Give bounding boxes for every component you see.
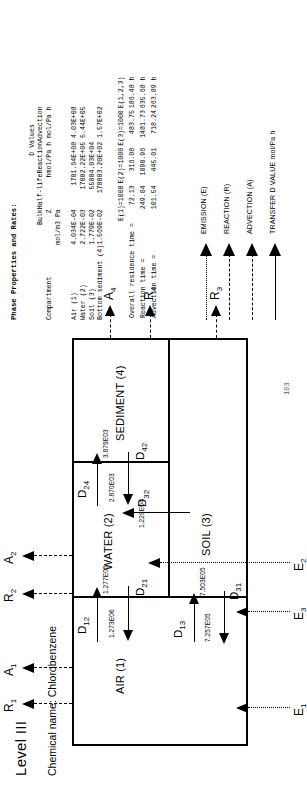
legend-label-advection: ADVECTION (A) [246,179,253,234]
header-compartment-blank [37,245,46,320]
dvalues-group-header: D Values [29,106,38,173]
residence-row: Reaction time = 249.04 1090.96 1481.73 6… [140,77,149,319]
header-halflife-l2: h [46,174,55,210]
d21-value: 1.273E06 [108,609,115,638]
arrow-shaft-d42 [128,452,129,494]
emission-e2-arrow [148,558,160,568]
advection-a1-arrow [22,663,34,673]
legend-label-reaction: REACTION (R) [223,184,230,234]
table-header-row-2: Compartment Z h mol/Pa h mol/Pa h [46,106,55,320]
divider-soil [168,340,170,598]
residence-header-row: E(1)=1000 E(2)=1000 E(3)=1000 E(1,2,3) [118,77,127,319]
cell-bulk-z: 1.779E-02 [89,209,98,245]
cell-compartment: Water (2) [80,245,89,320]
compartment-label-water: WATER (2) [102,513,114,570]
residence-e123: 635.68 h [140,77,149,109]
d24-value: 3.879E03 [102,429,109,458]
residence-e1: 101.54 [151,185,160,221]
advection-a1-label: A1 [2,664,18,676]
page-canvas: Level III Chemical name: Chlorobenzene 1… [0,0,299,790]
residence-time-table: E(1)=1000 E(2)=1000 E(3)=1000 E(1,2,3) O… [116,75,161,321]
d32-value: 1.228E04 [138,499,145,528]
legend-label-transfer-d: TRANSFER D VALUE mol/Pa h [269,130,276,234]
table-spacer-row [64,106,71,320]
arrow-shaft-d24 [97,462,98,506]
residence-e3: 718.24 [151,110,160,146]
residence-e1: 249.04 [140,185,149,221]
box-top-edge [72,338,74,746]
cell-d-advection: 1.57E+02 [97,106,106,142]
legend-arrow-transfer-icon [269,243,281,256]
legend-line-emission-icon [206,254,207,320]
emission-e3-line [248,611,290,612]
legend-line-reaction-icon [229,254,230,320]
residence-e3: 483.75 [129,110,138,146]
header-bulk-l3: mol/m3 Pa [55,209,64,245]
cell-bulk-z: 4.034E-04 [71,209,80,245]
cell-d-reaction: 1.64E+08 [71,142,80,174]
residence-col-header: E(2)=1000 [118,148,127,184]
legend-item-transfer-d: TRANSFER D VALUE mol/Pa h [265,20,288,320]
divider-sediment [72,462,168,464]
emission-e1-line [248,707,290,708]
d24-label: D24 [76,481,91,498]
legend-item-advection: ADVECTION (A) [242,20,265,320]
arrow-head-d13 [189,593,199,604]
panel-heading: Phase Properties and Rates: [10,4,20,320]
reaction-r1-arrow [22,699,34,709]
table-header-group-row: D Values [29,106,38,320]
reaction-r2-line [34,593,72,594]
residence-e123: 263.89 h [151,77,160,109]
header-bulk-l1: Bulk [37,209,46,245]
diagram-legend: EMISSION (E) REACTION (R) ADVECTION (A) … [196,20,288,320]
d42-label: D42 [134,443,149,460]
cell-d-reaction: 3.20E+02 [97,142,106,174]
legend-item-reaction: REACTION (R) [219,20,242,320]
residence-e1: 72.13 [129,185,138,221]
phase-properties-table: D Values Bulk Half-life Reaction Advecti… [29,106,107,320]
table-row: Air (1) 4.034E-04 170 1.64E+08 4.03E+08 [71,106,80,320]
phase-properties-panel: Phase Properties and Rates: D Values Bul… [10,4,162,320]
cell-d-advection: 4.03E+08 [71,106,80,142]
d21-label: D21 [134,579,149,596]
residence-e123: 186.48 h [129,77,138,109]
arrow-shaft-d13 [194,602,195,642]
residence-label: Reaction time = [140,223,149,318]
residence-col-header: E(1)=1000 [118,185,127,221]
arrow-shaft-d12 [97,596,98,642]
compartment-label-air: AIR (1) [114,658,126,694]
legend-line-advection-icon [252,254,253,320]
reaction-r2-arrow [22,589,34,599]
residence-col-header: E(1,2,3) [118,77,127,109]
cell-bulk-z: 1.569E-02 [97,209,106,245]
emission-e2-line [160,562,290,563]
residence-row: Advection time = 101.54 445.01 718.24 26… [151,77,160,319]
emission-e3-arrow [236,607,248,617]
d12-label: D12 [76,617,91,634]
advection-a2-label: A2 [2,552,18,564]
residence-e2: 1090.96 [140,148,149,184]
emission-e3-label: E3 [292,608,299,620]
advection-a2-line [34,555,72,556]
cell-compartment: Soil (3) [89,245,98,320]
d31-label: D31 [228,583,243,600]
d13-label: D13 [172,621,187,638]
legend-arrow-advection-icon [246,243,258,256]
table-header-row-1: Bulk Half-life Reaction Advection [37,106,46,320]
chemical-name-label: Chemical name: Chlorobenzene [46,626,58,776]
arrow-head-d21 [123,630,133,641]
legend-label-emission: EMISSION (E) [200,186,207,234]
header-advection-l1: Advection [37,106,46,142]
cell-half-life: 170 [71,174,80,210]
arrow-head-d12 [92,587,102,598]
arrow-shaft-d31 [224,591,225,633]
reaction-r2-label: R2 [2,589,18,602]
compartment-label-sediment: SEDIMENT (4) [114,365,126,441]
advection-a1-line [34,667,72,668]
arrow-head-d24 [92,453,102,464]
legend-item-emission: EMISSION (E) [196,20,219,320]
box-left-edge [72,745,248,747]
cell-d-advection [89,106,98,142]
header-advection-l2: mol/Pa h [46,106,55,142]
page-number: 103 [283,382,291,395]
